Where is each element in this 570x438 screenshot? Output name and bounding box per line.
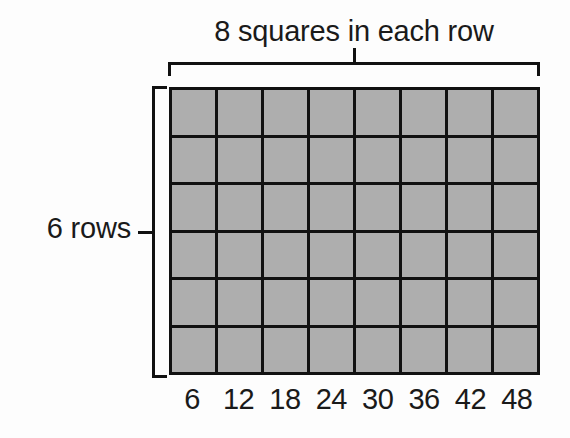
grid-square: [448, 328, 491, 373]
left-bracket-line: [152, 86, 155, 378]
column-number-label: 36: [401, 379, 447, 419]
left-bracket-bottom-end: [152, 375, 167, 378]
grid-square: [310, 138, 353, 183]
column-number-labels: 612182430364248: [169, 379, 540, 419]
grid-square: [494, 280, 537, 325]
grid-square: [494, 138, 537, 183]
grid-square: [172, 280, 215, 325]
grid-square: [356, 233, 399, 278]
left-bracket-center-tick: [138, 231, 152, 234]
grid-square: [172, 90, 215, 135]
grid-square: [402, 138, 445, 183]
grid-square: [264, 328, 307, 373]
grid-square: [172, 233, 215, 278]
grid-square: [218, 138, 261, 183]
grid-square: [356, 90, 399, 135]
grid-square: [310, 328, 353, 373]
column-number-label: 12: [215, 379, 261, 419]
column-number-label: 30: [355, 379, 401, 419]
left-bracket: [152, 86, 167, 378]
grid-square: [402, 185, 445, 230]
grid-square: [218, 328, 261, 373]
top-label: 8 squares in each row: [0, 14, 570, 48]
top-label-text: 8 squares in each row: [214, 14, 494, 48]
top-bracket-center-tick: [353, 48, 356, 62]
top-bracket-left-end: [168, 62, 171, 76]
grid-square: [172, 185, 215, 230]
grid-square: [310, 90, 353, 135]
column-number-label: 6: [169, 379, 215, 419]
grid-square: [310, 233, 353, 278]
grid-square: [448, 233, 491, 278]
left-bracket-top-end: [152, 86, 167, 89]
square-array-grid: [169, 87, 540, 375]
column-number-label: 48: [494, 379, 540, 419]
grid-square: [172, 328, 215, 373]
grid-square: [402, 90, 445, 135]
grid-square: [402, 280, 445, 325]
grid-square: [356, 328, 399, 373]
left-label: 6 rows: [0, 211, 131, 245]
grid-square: [356, 185, 399, 230]
column-number-label: 24: [308, 379, 354, 419]
grid-square: [264, 90, 307, 135]
grid-square: [218, 185, 261, 230]
grid-square: [402, 328, 445, 373]
grid-square: [264, 280, 307, 325]
grid-square: [448, 90, 491, 135]
figure-canvas: 8 squares in each row 6 rows 61218243036…: [0, 0, 570, 438]
grid-square: [310, 280, 353, 325]
top-bracket: [168, 62, 540, 76]
grid-square: [494, 90, 537, 135]
grid-square: [264, 233, 307, 278]
grid-square: [494, 233, 537, 278]
grid-square: [494, 185, 537, 230]
grid-square: [218, 90, 261, 135]
grid-square: [448, 138, 491, 183]
square-array: [169, 87, 540, 375]
grid-square: [448, 185, 491, 230]
grid-square: [356, 280, 399, 325]
column-number-label: 42: [447, 379, 493, 419]
top-bracket-line: [168, 62, 540, 65]
grid-square: [310, 185, 353, 230]
grid-square: [356, 138, 399, 183]
grid-square: [448, 280, 491, 325]
grid-square: [218, 280, 261, 325]
grid-square: [494, 328, 537, 373]
grid-square: [264, 138, 307, 183]
grid-square: [172, 138, 215, 183]
top-bracket-right-end: [537, 62, 540, 76]
grid-square: [264, 185, 307, 230]
column-number-label: 18: [262, 379, 308, 419]
grid-square: [402, 233, 445, 278]
grid-square: [218, 233, 261, 278]
